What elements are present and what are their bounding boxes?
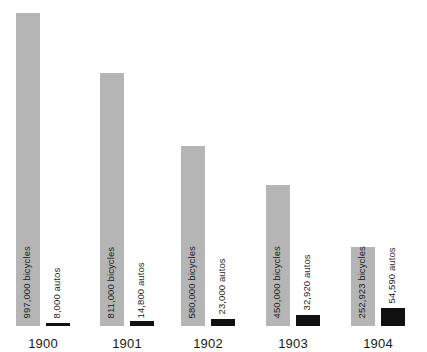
x-axis-tick-label-1901: 1901 bbox=[90, 337, 164, 350]
bar-autos-1901 bbox=[130, 321, 154, 326]
bar-chart: 997,000 bicycles 8,000 autos 1900 811,00… bbox=[0, 0, 427, 352]
bar-label-autos-1904: 54,590 autos bbox=[387, 247, 397, 303]
bar-label-autos-1900: 8,000 autos bbox=[52, 267, 62, 318]
bar-autos-1902 bbox=[211, 319, 235, 326]
bar-autos-1904 bbox=[381, 308, 405, 326]
bar-group-1900: 997,000 bicycles 8,000 autos 1900 bbox=[0, 0, 84, 352]
bar-autos-1900 bbox=[46, 323, 70, 326]
bar-label-bicycles-1902: 580,000 bicycles bbox=[187, 246, 197, 318]
plot-area: 997,000 bicycles 8,000 autos 1900 811,00… bbox=[0, 0, 427, 352]
bar-group-1904: 252,923 bicycles 54,590 autos 1904 bbox=[335, 0, 419, 352]
bar-label-bicycles-1901: 811,000 bicycles bbox=[106, 246, 116, 318]
x-axis-tick-label-1900: 1900 bbox=[6, 337, 80, 350]
bar-group-1903: 450,000 bicycles 32,920 autos 1903 bbox=[250, 0, 334, 352]
bar-label-bicycles-1903: 450,000 bicycles bbox=[272, 246, 282, 318]
bar-label-bicycles-1904: 252,923 bicycles bbox=[357, 246, 367, 318]
x-axis-tick-label-1903: 1903 bbox=[256, 337, 330, 350]
bar-group-1901: 811,000 bicycles 14,800 autos 1901 bbox=[84, 0, 168, 352]
bar-label-autos-1903: 32,920 autos bbox=[302, 254, 312, 310]
bar-label-bicycles-1900: 997,000 bicycles bbox=[22, 246, 32, 318]
x-axis-tick-label-1904: 1904 bbox=[341, 337, 415, 350]
bar-autos-1903 bbox=[296, 315, 320, 326]
x-axis-tick-label-1902: 1902 bbox=[171, 337, 245, 350]
bar-group-1902: 580,000 bicycles 23,000 autos 1902 bbox=[165, 0, 249, 352]
bar-label-autos-1901: 14,800 autos bbox=[136, 262, 146, 318]
bar-label-autos-1902: 23,000 autos bbox=[217, 258, 227, 314]
